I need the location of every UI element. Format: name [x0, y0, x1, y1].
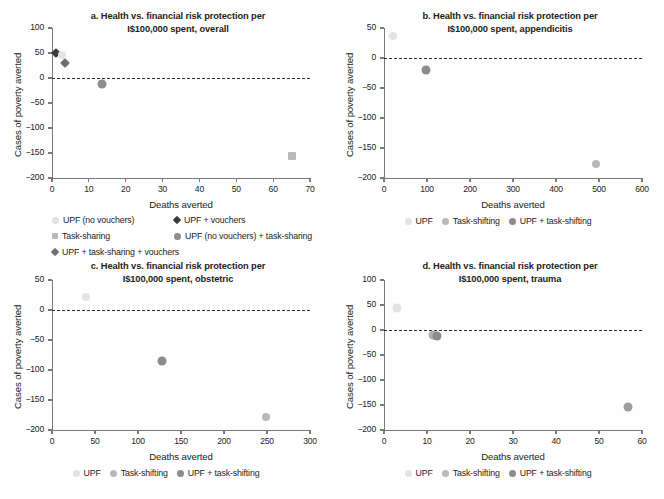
- legend-panel-b: UPFTask-shiftingUPF + task-shifting: [332, 216, 664, 226]
- data-point: [98, 79, 107, 88]
- x-tick-label: 600: [635, 184, 649, 194]
- legend-marker-circle-icon: [52, 217, 59, 224]
- y-tick-label: 0: [371, 52, 376, 62]
- x-tick-label: 50: [90, 436, 99, 446]
- legend-item[interactable]: UPF + task-sharing + vouchers: [52, 247, 174, 257]
- y-tick-label: 0: [39, 72, 44, 82]
- data-point: [288, 152, 296, 160]
- y-tick-label: −200: [25, 172, 44, 182]
- x-tick-label: 70: [305, 184, 314, 194]
- legend-item-label: Task-shifting: [453, 468, 500, 478]
- legend-item-label: Task-shifting: [453, 216, 500, 226]
- legend-item[interactable]: UPF + task-shifting: [177, 468, 260, 478]
- x-tick: [51, 178, 52, 182]
- y-tick: [48, 27, 52, 28]
- x-tick-label: 20: [121, 184, 130, 194]
- y-tick-label: 50: [35, 47, 44, 57]
- y-tick-label: −150: [25, 147, 44, 157]
- data-point: [389, 32, 397, 40]
- legend-item-label: UPF + task-shifting: [188, 468, 260, 478]
- y-tick-label: −150: [25, 394, 44, 404]
- legend-item-label: UPF (no vouchers) + task-sharing: [185, 231, 312, 241]
- legend-item[interactable]: UPF (no vouchers): [52, 215, 174, 225]
- x-tick: [555, 430, 556, 434]
- legend-marker-circle-icon: [405, 470, 412, 477]
- legend-item[interactable]: UPF + task-shifting: [509, 216, 592, 226]
- x-tick: [137, 430, 138, 434]
- legend-item-label: UPF + vouchers: [184, 215, 245, 225]
- x-tick-label: 10: [422, 436, 431, 446]
- legend-row: UPF + task-sharing + vouchers: [52, 244, 342, 260]
- legend-item[interactable]: UPF + vouchers: [174, 215, 245, 225]
- y-tick: [48, 152, 52, 153]
- x-tick-label: 0: [382, 436, 387, 446]
- legend-main: UPF (no vouchers)UPF + vouchersTask-shar…: [52, 212, 342, 260]
- x-tick: [266, 430, 267, 434]
- legend-marker-circle-icon: [442, 470, 449, 477]
- legend-item-label: UPF + task-sharing + vouchers: [62, 247, 179, 257]
- y-axis-line: [384, 280, 385, 430]
- x-tick-label: 50: [232, 184, 241, 194]
- x-tick: [641, 430, 642, 434]
- legend-item-label: UPF (no vouchers): [63, 215, 134, 225]
- y-tick: [380, 87, 384, 88]
- zero-reference-line: [52, 310, 310, 311]
- legend-item-label: UPF: [84, 468, 101, 478]
- zero-reference-line: [52, 78, 310, 79]
- x-tick: [512, 430, 513, 434]
- y-tick-label: 100: [30, 22, 44, 32]
- legend-item[interactable]: Task-shifting: [442, 216, 500, 226]
- y-axis-label: Cases of poverty averted: [12, 53, 23, 157]
- data-point: [421, 66, 430, 75]
- x-axis-label: Deaths averted: [52, 199, 310, 210]
- x-tick-label: 200: [217, 436, 231, 446]
- x-tick-label: 10: [84, 184, 93, 194]
- panel-b: b. Health vs. financial risk protection …: [332, 0, 664, 249]
- y-tick: [48, 369, 52, 370]
- x-tick-label: 100: [131, 436, 145, 446]
- y-tick-label: 0: [39, 304, 44, 314]
- legend-row: UPF (no vouchers)UPF + vouchers: [52, 212, 342, 228]
- y-tick-label: −200: [357, 172, 376, 182]
- legend-item-label: Task-shifting: [121, 468, 168, 478]
- legend-item[interactable]: Task-shifting: [110, 468, 168, 478]
- y-tick-label: −50: [362, 349, 376, 359]
- x-tick: [383, 430, 384, 434]
- x-tick-label: 50: [594, 436, 603, 446]
- legend-item[interactable]: UPF + task-shifting: [509, 468, 592, 478]
- x-tick: [512, 178, 513, 182]
- legend-item[interactable]: UPF: [73, 468, 101, 478]
- x-tick: [555, 178, 556, 182]
- x-tick-label: 0: [382, 184, 387, 194]
- x-tick: [236, 178, 237, 182]
- legend-item-label: UPF + task-shifting: [520, 216, 592, 226]
- figure-root: a. Health vs. financial risk protection …: [0, 0, 664, 499]
- x-tick: [88, 178, 89, 182]
- axes-a: 100500−50−100−150−200010203040506070: [52, 28, 310, 178]
- y-tick-label: −200: [357, 424, 376, 434]
- legend-item[interactable]: UPF (no vouchers) + task-sharing: [174, 231, 312, 241]
- x-tick: [199, 178, 200, 182]
- y-axis-label: Cases of poverty averted: [344, 53, 355, 157]
- legend-marker-circle-icon: [509, 470, 516, 477]
- y-tick-label: 50: [367, 299, 376, 309]
- x-tick: [273, 178, 274, 182]
- y-tick: [380, 279, 384, 280]
- data-point: [158, 357, 167, 366]
- legend-item[interactable]: Task-sharing: [52, 231, 174, 241]
- x-axis-label: Deaths averted: [384, 451, 642, 462]
- y-axis-line: [384, 28, 385, 178]
- y-tick-label: −100: [25, 122, 44, 132]
- x-tick-label: 200: [463, 184, 477, 194]
- y-tick-label: −100: [357, 112, 376, 122]
- x-tick: [469, 430, 470, 434]
- legend-item[interactable]: UPF: [405, 468, 433, 478]
- y-tick: [380, 354, 384, 355]
- legend-item[interactable]: UPF: [405, 216, 433, 226]
- x-tick-label: 40: [195, 184, 204, 194]
- x-tick: [598, 430, 599, 434]
- x-tick-label: 20: [465, 436, 474, 446]
- legend-item[interactable]: Task-shifting: [442, 468, 500, 478]
- panel-c: c. Health vs. financial risk protection …: [0, 250, 332, 499]
- x-tick: [309, 178, 310, 182]
